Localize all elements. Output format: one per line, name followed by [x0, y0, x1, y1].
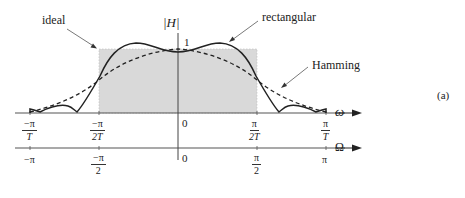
ideal-annotation-arrow	[67, 29, 97, 49]
rectangular-label: rectangular	[262, 11, 316, 23]
Omega-tick-pi-over-2: π 2	[252, 153, 261, 176]
Omega-tick-pi: π	[322, 155, 327, 165]
omega-tick-neg-pi-over-2T: −π 2T	[90, 119, 105, 142]
ideal-label: ideal	[42, 14, 65, 26]
frequency-response-diagram	[0, 0, 465, 198]
Omega-axis-label: Ω	[335, 141, 344, 153]
Omega-tick-zero: 0	[182, 153, 188, 164]
omega-axis-arrowhead	[352, 110, 362, 117]
Omega-axis-arrowhead	[352, 145, 362, 152]
omega-tick-neg-pi-over-T: −π T	[22, 119, 37, 142]
magnitude-axis-label: |H|	[163, 16, 180, 29]
omega-tick-pi-over-T: π T	[321, 119, 330, 142]
omega-tick-pi-over-2T: π 2T	[249, 119, 260, 142]
omega-axis-label: ω	[335, 105, 344, 118]
Omega-tick-neg-pi: −π	[24, 155, 35, 165]
hamming-annotation-arrow	[281, 67, 308, 88]
unity-gain-label: 1	[184, 37, 190, 48]
Omega-tick-neg-pi-over-2: −π 2	[91, 153, 106, 176]
omega-tick-zero: 0	[182, 118, 188, 129]
panel-label: (a)	[437, 90, 449, 101]
rectangular-annotation-arrow	[229, 21, 258, 42]
hamming-label: Hamming	[312, 59, 360, 71]
